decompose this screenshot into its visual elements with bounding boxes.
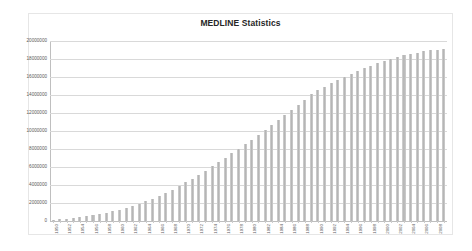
x-axis-tick: [292, 221, 293, 223]
x-axis-tick: [252, 221, 253, 223]
plot-area: 0200000040000006000000800000010000000120…: [50, 41, 447, 221]
x-axis-tick-label: 2008: [439, 224, 443, 234]
x-axis-tick: [146, 221, 147, 223]
x-axis-tick-label: 1972: [200, 224, 204, 234]
x-axis-tick: [417, 221, 418, 223]
x-axis-tick: [245, 221, 246, 223]
x-axis-tick: [272, 221, 273, 223]
y-axis-tick-label: 4000000: [29, 183, 47, 188]
y-axis-tick-label: 20000000: [27, 39, 47, 44]
x-axis-tick-label: 1964: [148, 224, 152, 234]
gridline: [50, 221, 447, 222]
x-axis-tick-label: 1978: [240, 224, 244, 234]
y-axis-tick-label: 8000000: [29, 147, 47, 152]
x-axis-tick: [212, 221, 213, 223]
x-axis-tick-label: 1962: [134, 224, 138, 234]
x-axis-tick: [430, 221, 431, 223]
x-axis-tick: [159, 221, 160, 223]
x-axis-tick: [80, 221, 81, 223]
x-axis-tick-label: 1990: [320, 224, 324, 234]
y-axis-tick-label: 18000000: [27, 57, 47, 62]
x-axis-tick: [331, 221, 332, 223]
x-axis-tick: [397, 221, 398, 223]
x-axis-tick: [186, 221, 187, 223]
y-axis-tick-label: 10000000: [27, 129, 47, 134]
x-axis-tick-label: 1968: [174, 224, 178, 234]
x-axis-tick: [325, 221, 326, 223]
y-axis-tick-label: 16000000: [27, 75, 47, 80]
x-axis-tick: [53, 221, 54, 223]
x-axis-tick-label: 2000: [386, 224, 390, 234]
x-axis-tick-label: 1954: [81, 224, 85, 234]
x-axis-tick: [278, 221, 279, 223]
chart-container: MEDLINE Statistics 020000004000000600000…: [28, 13, 453, 235]
x-axis-tick-label: 1970: [187, 224, 191, 234]
x-axis-tick: [391, 221, 392, 223]
x-axis-tick: [113, 221, 114, 223]
x-axis-tick: [73, 221, 74, 223]
x-axis-tick: [232, 221, 233, 223]
x-axis-tick: [424, 221, 425, 223]
y-axis-tick-label: 6000000: [29, 165, 47, 170]
chart-title: MEDLINE Statistics: [29, 18, 452, 28]
x-axis-tick-label: 1980: [253, 224, 257, 234]
x-axis-tick: [344, 221, 345, 223]
x-axis-tick-label: 2004: [412, 224, 416, 234]
y-axis-tick-label: 12000000: [27, 111, 47, 116]
y-axis-tick-label: 0: [44, 219, 47, 224]
x-axis-tick: [411, 221, 412, 223]
x-axis-tick: [311, 221, 312, 223]
x-axis-tick-label: 1958: [108, 224, 112, 234]
x-axis-tick: [258, 221, 259, 223]
x-axis-tick: [318, 221, 319, 223]
x-axis-tick-label: 1956: [95, 224, 99, 234]
y-axis-tick-label: 14000000: [27, 93, 47, 98]
x-axis-tick: [378, 221, 379, 223]
x-axis-tick: [358, 221, 359, 223]
x-axis-tick: [86, 221, 87, 223]
x-axis-tick: [219, 221, 220, 223]
x-axis-tick: [199, 221, 200, 223]
x-axis-tick: [139, 221, 140, 223]
x-axis-tick-label: 1984: [280, 224, 284, 234]
x-axis-tick: [119, 221, 120, 223]
x-axis-tick: [338, 221, 339, 223]
x-axis-tick: [225, 221, 226, 223]
x-axis-tick: [172, 221, 173, 223]
x-axis-tick: [153, 221, 154, 223]
x-axis-tick: [166, 221, 167, 223]
x-axis-tick: [60, 221, 61, 223]
x-axis-tick: [100, 221, 101, 223]
x-axis-tick: [437, 221, 438, 223]
x-axis-tick-label: 1994: [346, 224, 350, 234]
x-axis-tick-label: 1982: [267, 224, 271, 234]
x-axis-tick-label: 2006: [425, 224, 429, 234]
x-axis-tick: [239, 221, 240, 223]
x-axis-tick: [364, 221, 365, 223]
x-axis-tick: [265, 221, 266, 223]
x-axis-tick-label: 1974: [214, 224, 218, 234]
x-axis-tick: [404, 221, 405, 223]
x-axis-tick: [192, 221, 193, 223]
x-axis-tick: [67, 221, 68, 223]
x-axis-tick: [444, 221, 445, 223]
x-axis-tick: [179, 221, 180, 223]
y-axis-tick-label: 2000000: [29, 201, 47, 206]
x-axis-tick-label: 1950: [55, 224, 59, 234]
x-axis-labels: 1950195219541956195819601962196419661968…: [50, 41, 447, 221]
x-axis-tick: [93, 221, 94, 223]
x-axis-tick-label: 1966: [161, 224, 165, 234]
x-axis-tick-label: 1988: [306, 224, 310, 234]
x-axis-tick: [371, 221, 372, 223]
x-axis-tick: [126, 221, 127, 223]
x-axis-tick-label: 1998: [373, 224, 377, 234]
x-axis-tick: [285, 221, 286, 223]
x-axis-tick: [106, 221, 107, 223]
x-axis-tick-label: 1960: [121, 224, 125, 234]
x-axis-tick: [351, 221, 352, 223]
x-axis-tick-label: 1996: [359, 224, 363, 234]
x-axis-tick: [133, 221, 134, 223]
x-axis-tick: [298, 221, 299, 223]
x-axis-tick: [205, 221, 206, 223]
x-axis-tick-label: 2002: [399, 224, 403, 234]
